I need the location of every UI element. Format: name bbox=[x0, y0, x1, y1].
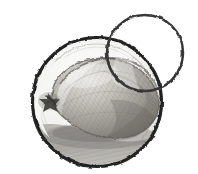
paper-grain-overlay bbox=[0, 0, 198, 174]
sketch-canvas bbox=[0, 0, 198, 174]
sketch-artboard: Pencil sketch of a pear-shaped fruit ins… bbox=[0, 0, 198, 174]
